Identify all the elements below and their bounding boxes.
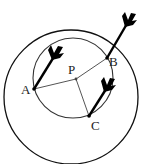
arrow-A-icon	[34, 45, 64, 89]
label-C: C	[91, 118, 100, 133]
point-A	[32, 87, 36, 91]
outer-circle	[4, 30, 138, 164]
arrow-B-icon	[107, 12, 137, 58]
segment-PC	[76, 79, 89, 116]
arrow-C-icon	[89, 77, 116, 116]
label-P: P	[68, 62, 75, 77]
inner-circle	[33, 38, 113, 118]
point-P	[75, 78, 78, 81]
label-A: A	[21, 82, 31, 97]
segment-PB	[76, 58, 107, 79]
diagram-canvas: A P B C	[0, 0, 143, 164]
target-diagram: A P B C	[0, 0, 143, 164]
label-B: B	[109, 54, 118, 69]
